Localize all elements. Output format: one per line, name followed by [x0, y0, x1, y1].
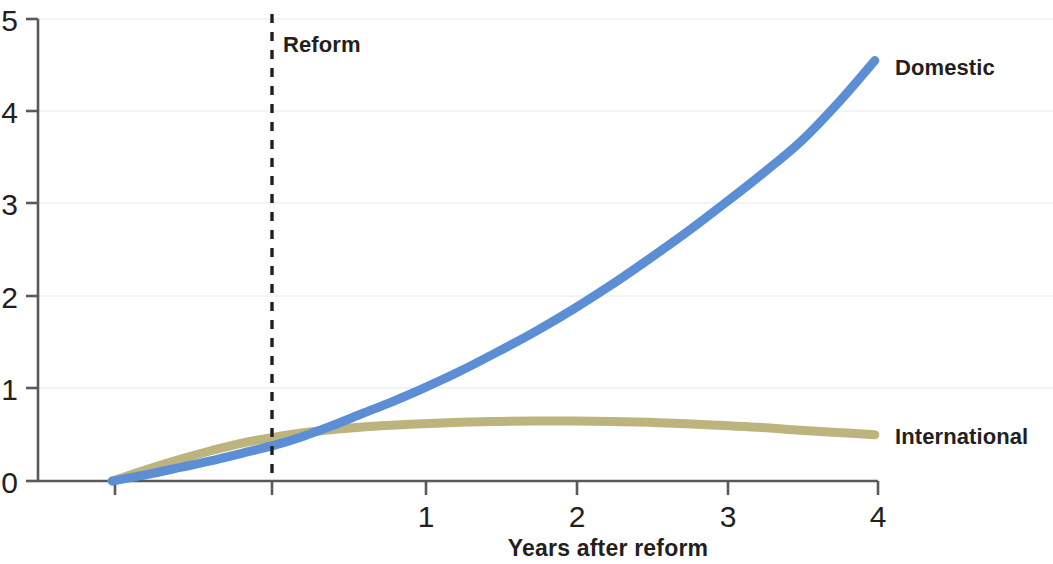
y-tick-label-0: 0: [1, 466, 18, 499]
y-tick-label-1: 1: [1, 373, 18, 406]
x-axis: [38, 481, 878, 495]
y-axis: [26, 19, 38, 481]
series-label-international: International: [895, 424, 1028, 449]
series-label-domestic: Domestic: [895, 55, 995, 80]
y-tick-label-4: 4: [1, 96, 18, 129]
x-axis-title: Years after reform: [508, 535, 708, 561]
y-tick-label-3: 3: [1, 188, 18, 221]
y-tick-label-5: 5: [1, 4, 18, 37]
x-tick-label-3: 3: [720, 500, 737, 533]
series-group: [112, 61, 875, 481]
x-tick-label-2: 2: [569, 500, 586, 533]
reform-label: Reform: [283, 32, 361, 57]
x-tick-label-4: 4: [870, 500, 887, 533]
line-chart: 5 4 3 2 1 0 1 2 3 4 Reform Domestic: [0, 0, 1053, 564]
series-line-international: [112, 421, 875, 481]
x-tick-label-1: 1: [418, 500, 435, 533]
y-tick-label-2: 2: [1, 281, 18, 314]
chart-container: 5 4 3 2 1 0 1 2 3 4 Reform Domestic: [0, 0, 1053, 564]
